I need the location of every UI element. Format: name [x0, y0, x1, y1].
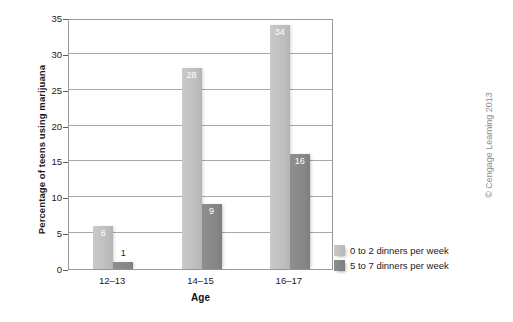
plot-area: 612893416: [68, 19, 333, 270]
bar: 28: [182, 68, 202, 269]
bar-value-label: 9: [202, 207, 222, 216]
gridline: [69, 53, 332, 54]
legend-label: 5 to 7 dinners per week: [350, 260, 449, 271]
x-axis-tick-label: 14–15: [171, 275, 231, 286]
bar-value-label: 6: [93, 229, 113, 238]
chart-figure: Percentage of teens using marijuana 0510…: [0, 0, 513, 322]
y-axis-tick-label: 30: [40, 50, 62, 60]
legend-swatch: [334, 245, 345, 256]
bar-value-label: 28: [182, 71, 202, 80]
legend-swatch: [334, 260, 345, 271]
y-axis-tick-label: 25: [40, 86, 62, 96]
bar: 34: [270, 25, 290, 269]
bar-value-label: 16: [290, 157, 310, 166]
y-axis-tick-label: 20: [40, 122, 62, 132]
y-axis-tick-label: 10: [40, 193, 62, 203]
x-axis-tick-label: 16–17: [259, 275, 319, 286]
y-axis-tick-label: 35: [40, 14, 62, 24]
y-axis-tick-label: 15: [40, 157, 62, 167]
x-axis-title: Age: [68, 292, 333, 303]
legend-item: 0 to 2 dinners per week: [334, 243, 474, 258]
bar: 6: [93, 226, 113, 269]
bar: 9: [202, 204, 222, 269]
bar: 16: [290, 154, 310, 269]
legend-item: 5 to 7 dinners per week: [334, 258, 474, 273]
chart-legend: 0 to 2 dinners per week5 to 7 dinners pe…: [334, 243, 474, 273]
y-axis-tick-label: 5: [40, 229, 62, 239]
x-axis-tick-label: 12–13: [82, 275, 142, 286]
y-axis-tick: [63, 270, 68, 271]
copyright-credit: © Cengage Learning 2013: [484, 65, 494, 225]
bar-value-label: 34: [270, 28, 290, 37]
bar-value-label: 1: [113, 249, 133, 258]
bar: 1: [113, 262, 133, 269]
legend-label: 0 to 2 dinners per week: [350, 245, 449, 256]
y-axis-tick-label: 0: [40, 265, 62, 275]
